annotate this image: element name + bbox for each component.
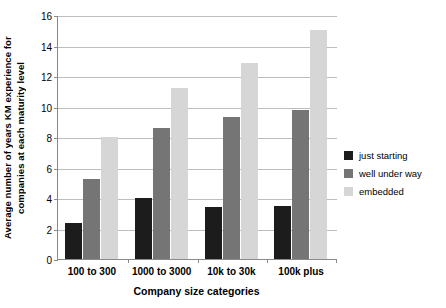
y-axis-title: Average number of years KM experience fo…	[0, 14, 30, 262]
y-axis-tick-label: 16	[41, 11, 52, 22]
bar-group	[267, 15, 337, 259]
x-axis-tick-label: 1000 to 3000	[127, 266, 197, 277]
y-axis-tick-label: 4	[46, 194, 52, 205]
bar	[241, 63, 258, 259]
bar	[274, 206, 291, 259]
legend-swatch-icon	[344, 169, 353, 178]
y-axis-tick-label: 2	[46, 224, 52, 235]
bar	[65, 223, 82, 259]
x-axis-tick-mark	[128, 259, 129, 263]
legend: just startingwell under wayembedded	[344, 146, 444, 200]
legend-item[interactable]: well under way	[344, 164, 444, 182]
bar	[171, 88, 188, 259]
x-axis-tick-mark	[198, 259, 199, 263]
plot-area: 0246810121416	[57, 16, 336, 260]
legend-item-label: well under way	[359, 168, 422, 179]
bar	[135, 198, 152, 259]
legend-item[interactable]: just starting	[344, 146, 444, 164]
x-axis-title: Company size categories	[57, 285, 336, 297]
y-axis-tick-label: 6	[46, 163, 52, 174]
bar	[205, 207, 222, 259]
legend-item-label: just starting	[359, 150, 408, 161]
bar-group	[58, 15, 128, 259]
y-axis-title-line-1: Average number of years KM experience fo…	[2, 14, 13, 262]
y-axis-tick-label: 0	[46, 255, 52, 266]
bar	[83, 179, 100, 259]
bar-group	[128, 15, 198, 259]
legend-swatch-icon	[344, 151, 353, 160]
bar	[101, 137, 118, 259]
y-axis-tick-label: 10	[41, 102, 52, 113]
bar	[292, 110, 309, 259]
bar	[153, 128, 170, 259]
x-axis-tick-label: 100k plus	[266, 266, 336, 277]
bar-group	[198, 15, 268, 259]
legend-item-label: embedded	[359, 186, 404, 197]
x-axis-tick-label: 10k to 30k	[197, 266, 267, 277]
x-axis-tick-mark	[336, 259, 337, 263]
y-axis-title-line-2: companies at each maturity level	[15, 14, 26, 262]
x-axis-tick-mark	[267, 259, 268, 263]
legend-swatch-icon	[344, 187, 353, 196]
bar	[223, 117, 240, 259]
x-axis-tick-label: 100 to 300	[57, 266, 127, 277]
legend-item[interactable]: embedded	[344, 182, 444, 200]
y-axis-tick-label: 14	[41, 41, 52, 52]
y-axis-tick-label: 12	[41, 72, 52, 83]
bar-chart: Average number of years KM experience fo…	[0, 0, 446, 308]
bar	[310, 30, 327, 259]
y-axis-tick-label: 8	[46, 133, 52, 144]
y-axis-tick-mark	[54, 260, 58, 261]
